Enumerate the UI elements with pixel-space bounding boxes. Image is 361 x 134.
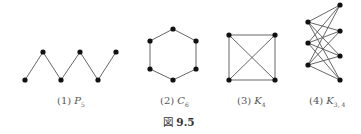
caption-subscript: 4	[262, 101, 266, 108]
figure-label-prefix: 図	[163, 116, 173, 128]
figure-title: 図 9.5	[163, 114, 195, 129]
caption-p5: (1) P5	[57, 95, 85, 108]
graph-edge	[150, 69, 173, 80]
graph-vertex	[77, 49, 82, 54]
caption-k34: (4) K3, 4	[309, 95, 345, 108]
graph-vertex	[337, 77, 342, 82]
graph-vertex	[147, 38, 152, 43]
graph-edge	[80, 52, 98, 80]
caption-symbol: K	[326, 95, 333, 106]
graph-vertex	[113, 49, 118, 54]
caption-index: (4)	[309, 95, 323, 106]
caption-subscript: 6	[185, 101, 189, 108]
figure-number: 9.5	[176, 116, 194, 128]
graph-vertex	[272, 77, 277, 82]
graph-vertex	[337, 53, 342, 58]
graph-edge	[173, 29, 196, 41]
caption-index: (1)	[57, 95, 71, 106]
graph-vertex	[22, 77, 27, 82]
graph-vertex	[337, 2, 342, 7]
graph-vertex	[305, 40, 310, 45]
graph-edge	[61, 52, 80, 80]
caption-k4: (3) K4	[237, 95, 266, 108]
graph-vertex	[305, 19, 310, 24]
caption-subscript: 5	[81, 101, 85, 108]
graph-complete-k4	[226, 32, 277, 82]
graph-edge	[308, 65, 340, 80]
graph-edge	[150, 29, 173, 41]
caption-subscript: 3, 4	[334, 101, 345, 108]
graph-edge	[308, 43, 340, 56]
graph-vertex	[226, 32, 231, 37]
graph-vertex	[226, 77, 231, 82]
caption-symbol: K	[254, 95, 261, 106]
graph-edge	[173, 69, 196, 80]
caption-index: (2)	[160, 95, 174, 106]
graph-complete-bipartite-k34	[305, 2, 342, 82]
graph-vertex	[305, 62, 310, 67]
graph-vertex	[147, 66, 152, 71]
graph-vertex	[170, 77, 175, 82]
graph-vertex	[193, 66, 198, 71]
graph-edge	[43, 52, 61, 80]
caption-symbol: C	[177, 95, 185, 106]
caption-index: (3)	[237, 95, 251, 106]
graph-edge	[98, 52, 116, 80]
graph-edge	[25, 52, 43, 80]
graph-vertex	[40, 49, 45, 54]
graph-vertex	[337, 28, 342, 33]
graph-cycle-c6	[147, 26, 198, 82]
graph-vertex	[170, 26, 175, 31]
graph-vertex	[95, 77, 100, 82]
graph-vertex	[193, 38, 198, 43]
graph-path-p5	[22, 49, 118, 82]
caption-c6: (2) C6	[160, 95, 189, 108]
graph-vertex	[58, 77, 63, 82]
graph-vertex	[272, 32, 277, 37]
